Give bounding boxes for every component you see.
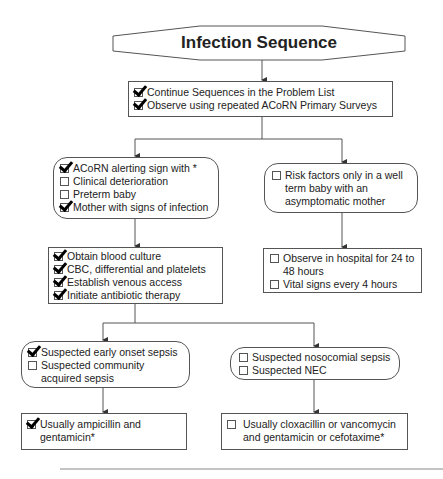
checkbox-checked-icon[interactable] <box>28 348 37 357</box>
item-label: Initiate antibiotic therapy <box>67 289 180 302</box>
checklist-item: Suspected early onset sepsis <box>28 346 183 359</box>
item-label-continued: gentamicin* <box>27 431 181 444</box>
checklist-item: Usually ampicillin and <box>27 418 181 431</box>
checklist-item: Clinical deterioration <box>60 175 212 188</box>
checkbox-checked-icon[interactable] <box>60 203 69 212</box>
checkbox-empty-icon[interactable] <box>239 353 248 362</box>
title-banner: Infection Sequence <box>113 26 405 60</box>
item-label-continued: asymptomatic mother <box>272 195 410 208</box>
page-title: Infection Sequence <box>113 33 405 53</box>
item-label-continued: 48 hours <box>270 265 415 278</box>
checklist-item: Initiate antibiotic therapy <box>54 289 217 302</box>
item-label-continued: term baby with an <box>272 182 410 195</box>
checklist-item: CBC, differential and platelets <box>54 263 217 276</box>
checklist-item: Obtain blood culture <box>54 250 217 263</box>
checkbox-empty-icon[interactable] <box>239 366 248 375</box>
item-label-continued: acquired sepsis <box>28 372 183 385</box>
checklist-item: Suspected nosocomial sepsis <box>239 351 391 364</box>
early-onset-sepsis-box: Suspected early onset sepsis Suspected c… <box>21 341 190 388</box>
checklist-item: Observe in hospital for 24 to <box>270 252 415 265</box>
checklist-item: Vital signs every 4 hours <box>270 278 415 291</box>
item-label: Vital signs every 4 hours <box>283 278 397 291</box>
item-label: Clinical deterioration <box>73 175 168 188</box>
checkbox-empty-icon[interactable] <box>60 177 69 186</box>
checkbox-empty-icon[interactable] <box>272 171 281 180</box>
checkbox-empty-icon[interactable] <box>227 420 236 429</box>
checklist-item: Continue Sequences in the Problem List <box>134 86 387 99</box>
checklist-item: Risk factors only in a well <box>272 169 410 182</box>
checkbox-checked-icon[interactable] <box>54 291 63 300</box>
item-label: ACoRN alerting sign with * <box>73 162 197 175</box>
item-label: Usually ampicillin and <box>40 418 141 431</box>
item-label: Preterm baby <box>73 188 136 201</box>
item-label: CBC, differential and platelets <box>67 263 206 276</box>
checklist-item: ACoRN alerting sign with * <box>60 162 212 175</box>
checkbox-empty-icon[interactable] <box>270 254 279 263</box>
item-label: Obtain blood culture <box>67 250 161 263</box>
checklist-item: Observe using repeated ACoRN Primary Sur… <box>134 99 387 112</box>
checkbox-empty-icon[interactable] <box>28 361 37 370</box>
checkbox-checked-icon[interactable] <box>27 420 36 429</box>
item-label: Mother with signs of infection <box>73 201 208 214</box>
item-label-continued: and gentamicin or cefotaxime* <box>227 431 402 444</box>
item-label: Continue Sequences in the Problem List <box>147 86 334 99</box>
item-label: Suspected early onset sepsis <box>41 346 178 359</box>
treatment-right-box: Usually cloxacillin or vancomycin and ge… <box>221 413 408 450</box>
checklist-item: Suspected NEC <box>239 364 391 377</box>
risk-factors-box: Risk factors only in a well term baby wi… <box>264 163 418 213</box>
checkbox-empty-icon[interactable] <box>270 280 279 289</box>
checklist-item: Usually cloxacillin or vancomycin <box>227 418 402 431</box>
item-label: Risk factors only in a well <box>285 169 403 182</box>
connector-lines <box>0 0 443 479</box>
item-label: Suspected nosocomial sepsis <box>252 351 390 364</box>
checkbox-checked-icon[interactable] <box>134 101 143 110</box>
alert-signs-box: ACoRN alerting sign with * Clinical dete… <box>53 157 219 219</box>
item-label: Observe using repeated ACoRN Primary Sur… <box>147 99 377 112</box>
checklist-item: Establish venous access <box>54 276 217 289</box>
item-label: Usually cloxacillin or vancomycin <box>243 418 396 431</box>
nosocomial-sepsis-box: Suspected nosocomial sepsis Suspected NE… <box>230 347 400 380</box>
item-label: Suspected NEC <box>252 364 327 377</box>
treatment-left-box: Usually ampicillin and gentamicin* <box>21 413 187 450</box>
item-label: Suspected community <box>41 359 144 372</box>
checklist-item: Suspected community <box>28 359 183 372</box>
top-checklist-box: Continue Sequences in the Problem List O… <box>128 81 393 117</box>
item-label: Observe in hospital for 24 to <box>283 252 414 265</box>
item-label: Establish venous access <box>67 276 182 289</box>
observe-box: Observe in hospital for 24 to 48 hours V… <box>263 248 422 293</box>
checklist-item: Preterm baby <box>60 188 212 201</box>
initial-actions-box: Obtain blood culture CBC, differential a… <box>48 247 223 304</box>
checkbox-checked-icon[interactable] <box>60 164 69 173</box>
checklist-item: Mother with signs of infection <box>60 201 212 214</box>
